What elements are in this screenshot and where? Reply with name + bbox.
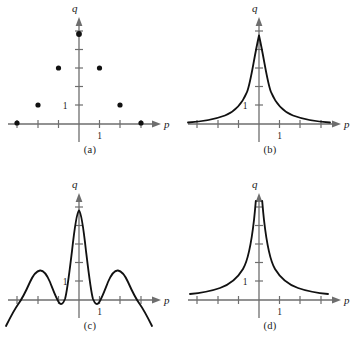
panel-c-caption: (c) — [0, 320, 180, 331]
y-tick-label-one: 1 — [63, 277, 68, 287]
x-axis-label: p — [163, 294, 170, 306]
data-point — [117, 102, 122, 107]
y-axis-arrowhead — [256, 17, 263, 26]
data-point — [97, 65, 102, 70]
panel-a-plot: p q 1 1 — [0, 0, 180, 152]
panel-d: p q 1 1 (d) — [180, 176, 360, 353]
panel-c-plot: p q 1 1 — [0, 176, 180, 328]
x-tick-label-one: 1 — [97, 131, 102, 141]
data-point — [14, 120, 19, 125]
y-axis-arrowhead — [76, 193, 83, 202]
x-tick-label-one: 1 — [97, 307, 102, 317]
panel-c: p q 1 1 (c) — [0, 176, 180, 353]
curve-cusp-right — [262, 201, 328, 294]
data-point — [76, 31, 82, 37]
data-point — [56, 65, 61, 70]
y-axis-label: q — [252, 2, 258, 14]
y-axis-label: q — [72, 2, 78, 14]
data-point — [35, 102, 40, 107]
y-tick-label-one: 1 — [243, 101, 248, 111]
panel-d-caption: (d) — [180, 320, 360, 331]
x-axis-arrowhead — [152, 297, 161, 304]
y-axis-arrowhead — [76, 17, 83, 26]
x-tick-label-one: 1 — [277, 131, 282, 141]
y-tick-label-one: 1 — [63, 101, 68, 111]
panel-b-plot: p q 1 1 — [180, 0, 360, 152]
x-axis-label: p — [343, 118, 350, 130]
x-axis-arrowhead — [332, 121, 341, 128]
x-tick-label-one: 1 — [277, 307, 282, 317]
panel-b-caption: (b) — [180, 144, 360, 155]
y-tick-label-one: 1 — [243, 277, 248, 287]
y-axis-label: q — [252, 178, 258, 190]
y-axis-label: q — [72, 178, 78, 190]
x-axis-arrowhead — [332, 297, 341, 304]
panel-d-plot: p q 1 1 — [180, 176, 360, 328]
x-axis-arrowhead — [152, 121, 161, 128]
panel-a: p q 1 1 (a) — [0, 0, 180, 177]
x-axis-label: p — [343, 294, 350, 306]
figure-container: p q 1 1 (a) — [0, 0, 360, 353]
x-axis-label: p — [163, 118, 170, 130]
panel-a-caption: (a) — [0, 144, 180, 155]
data-point — [138, 120, 143, 125]
panel-b: p q 1 1 (b) — [180, 0, 360, 177]
